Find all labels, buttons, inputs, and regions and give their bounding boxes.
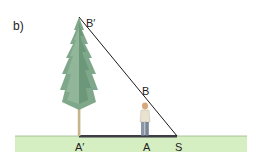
- shadow: [79, 135, 177, 138]
- sight-line: [79, 17, 177, 136]
- person-icon: [140, 103, 150, 136]
- label-b-prime: B′: [86, 18, 95, 29]
- label-b: B: [142, 86, 149, 97]
- diagram-canvas: [0, 0, 257, 162]
- label-s: S: [175, 142, 182, 153]
- label-a-prime: A′: [75, 142, 84, 153]
- panel-label: b): [13, 20, 24, 32]
- ground-strip: [15, 136, 247, 152]
- tree-foliage-icon: [60, 17, 98, 110]
- similar-triangles-diagram: b) B′ B A′ A S: [0, 0, 257, 162]
- label-a: A: [143, 142, 150, 153]
